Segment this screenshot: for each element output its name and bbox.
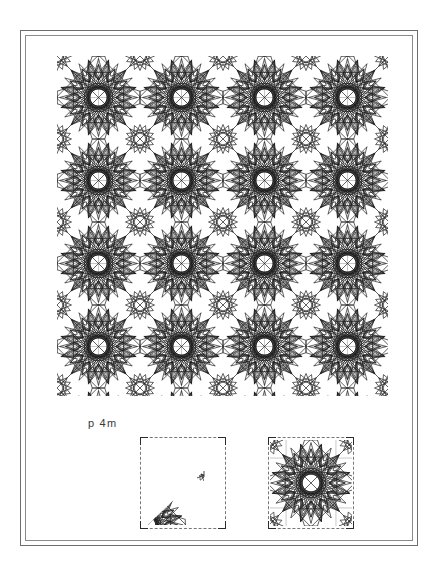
corner-mark-top-right-icon xyxy=(218,437,226,445)
page-title: p 4m xyxy=(88,417,117,429)
page-canvas: p 4m xyxy=(0,0,444,578)
corner-mark-bottom-right-icon xyxy=(218,521,226,529)
unit-cell-figure xyxy=(268,437,354,529)
corner-mark-top-left-icon xyxy=(140,437,148,445)
corner-mark-bottom-left-icon xyxy=(268,521,276,529)
corner-mark-top-right-icon xyxy=(346,437,354,445)
corner-mark-bottom-left-icon xyxy=(140,521,148,529)
fundamental-domain-svg xyxy=(140,437,226,529)
corner-mark-bottom-right-icon xyxy=(346,521,354,529)
fundamental-domain-figure xyxy=(140,437,226,529)
corner-mark-top-left-icon xyxy=(268,437,276,445)
fundamental-domain-panel xyxy=(140,437,226,529)
unit-cell-panel xyxy=(268,437,354,529)
main-pattern-svg xyxy=(57,56,388,396)
unit-cell-svg xyxy=(268,437,354,529)
main-pattern xyxy=(57,56,388,396)
